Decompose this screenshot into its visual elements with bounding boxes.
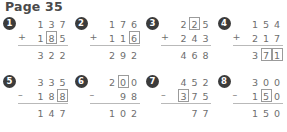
- digit-cell: 3: [35, 75, 46, 88]
- digit-cell: 2: [107, 75, 118, 88]
- addend-bottom-row: +217: [233, 30, 283, 44]
- digit-cell: 9: [118, 48, 129, 61]
- digit-cell: 1: [35, 106, 46, 119]
- sum-rule: [90, 103, 140, 104]
- operator-sign: +: [90, 30, 98, 44]
- digit-cell: 3: [35, 48, 46, 61]
- vertical-sum: 335–188147: [18, 74, 68, 119]
- addend-top-row: 335: [18, 74, 68, 88]
- answer-row: 468: [161, 47, 211, 61]
- digit-cell: 7: [57, 17, 68, 30]
- digit-cell-boxed[interactable]: 8: [57, 89, 68, 102]
- digit-cell: 2: [178, 31, 189, 44]
- digit-cell: 3: [200, 31, 211, 44]
- sum-rule: [161, 103, 211, 104]
- digit-cell: 7: [272, 31, 283, 44]
- answer-row: 322: [18, 47, 68, 61]
- digit-cell: 1: [250, 89, 261, 102]
- addend-bottom-row: +185: [18, 30, 68, 44]
- digit-cell: 2: [250, 31, 261, 44]
- answer-row: 102: [90, 105, 140, 119]
- digit-cell: 3: [250, 75, 261, 88]
- digit-cell: 3: [46, 17, 57, 30]
- problem-number-badge: 4: [218, 17, 231, 30]
- digit-cell: 1: [250, 17, 261, 30]
- digit-cell: 5: [189, 75, 200, 88]
- digit-cell: 7: [57, 106, 68, 119]
- page-title: Page 35: [5, 0, 63, 14]
- digit-cell: 0: [129, 75, 140, 88]
- digit-cell-boxed[interactable]: 1: [272, 48, 283, 61]
- digit-cell: 1: [35, 31, 46, 44]
- digit-cell: 2: [129, 48, 140, 61]
- problem: 6200–98102: [72, 72, 144, 130]
- problem-grid: 1137+1853222176+1162923225+2434684154+21…: [0, 14, 286, 130]
- answer-row: 77: [161, 105, 211, 119]
- vertical-sum: 225+243468: [161, 16, 211, 61]
- digit-cell: 8: [129, 89, 140, 102]
- digit-cell-boxed[interactable]: 0: [118, 75, 129, 88]
- sum-rule: [90, 45, 140, 46]
- sum-rule: [18, 45, 68, 46]
- digit-cell: 2: [129, 106, 140, 119]
- problem: 3225+243468: [143, 14, 215, 72]
- digit-cell-boxed[interactable]: 5: [261, 89, 272, 102]
- digit-cell-boxed[interactable]: 8: [46, 31, 57, 44]
- digit-cell: 4: [178, 75, 189, 88]
- addend-top-row: 300: [233, 74, 283, 88]
- digit-cell: 0: [272, 106, 283, 119]
- digit-cell: 3: [46, 75, 57, 88]
- problem-number-badge: 2: [75, 17, 88, 30]
- operator-sign: –: [161, 88, 166, 102]
- answer-row: 150: [233, 105, 283, 119]
- digit-cell: 6: [129, 17, 140, 30]
- digit-cell-boxed[interactable]: 6: [129, 31, 140, 44]
- problem: 7452–37577: [143, 72, 215, 130]
- operator-sign: –: [233, 88, 238, 102]
- digit-cell: 1: [107, 31, 118, 44]
- digit-cell: [178, 106, 189, 119]
- digit-cell: 0: [261, 75, 272, 88]
- operator-sign: +: [161, 30, 169, 44]
- addend-top-row: 200: [90, 74, 140, 88]
- vertical-sum: 300–150150: [233, 74, 283, 119]
- digit-cell-boxed[interactable]: 7: [261, 48, 272, 61]
- digit-cell: 1: [107, 17, 118, 30]
- addend-top-row: 137: [18, 16, 68, 30]
- problem: 8300–150150: [215, 72, 287, 130]
- problem: 5335–188147: [0, 72, 72, 130]
- vertical-sum: 137+185322: [18, 16, 68, 61]
- digit-cell: 2: [200, 75, 211, 88]
- digit-cell: 0: [118, 106, 129, 119]
- addend-top-row: 452: [161, 74, 211, 88]
- sum-rule: [233, 103, 283, 104]
- digit-cell: 3: [250, 48, 261, 61]
- digit-cell: 4: [272, 17, 283, 30]
- digit-cell: 5: [261, 106, 272, 119]
- operator-sign: +: [18, 30, 26, 44]
- digit-cell: 7: [189, 106, 200, 119]
- addend-bottom-row: –375: [161, 88, 211, 102]
- problem-number-badge: 7: [146, 75, 159, 88]
- digit-cell: 1: [250, 106, 261, 119]
- addend-bottom-row: +116: [90, 30, 140, 44]
- digit-cell: 7: [200, 106, 211, 119]
- addend-bottom-row: –150: [233, 88, 283, 102]
- answer-row: 371: [233, 47, 283, 61]
- digit-cell: 5: [200, 89, 211, 102]
- digit-cell-boxed[interactable]: 2: [189, 17, 200, 30]
- problem: 1137+185322: [0, 14, 72, 72]
- digit-cell-boxed[interactable]: 3: [178, 89, 189, 102]
- digit-cell: 4: [46, 106, 57, 119]
- digit-cell: 9: [118, 89, 129, 102]
- operator-sign: –: [90, 88, 95, 102]
- problem-number-badge: 3: [146, 17, 159, 30]
- digit-cell: 5: [57, 31, 68, 44]
- problem-number-badge: 6: [75, 75, 88, 88]
- digit-cell: 1: [35, 89, 46, 102]
- digit-cell: 2: [57, 48, 68, 61]
- answer-row: 292: [90, 47, 140, 61]
- problem-number-badge: 8: [218, 75, 231, 88]
- problem: 2176+116292: [72, 14, 144, 72]
- operator-sign: –: [18, 88, 23, 102]
